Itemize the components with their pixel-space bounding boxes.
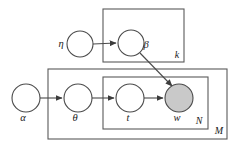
plate-label-m: M: [214, 125, 224, 136]
node-label-t: t: [127, 112, 131, 123]
node-label-eta: η: [58, 38, 63, 49]
node-label-w: w: [173, 112, 180, 123]
node-t-circle: [116, 84, 144, 112]
graphical-model-canvas: η β α θ t w k M N: [0, 0, 238, 147]
node-w-circle: [165, 84, 193, 112]
node-theta-circle: [64, 84, 92, 112]
node-label-theta: θ: [72, 112, 77, 123]
edges-group: [40, 43, 172, 98]
node-beta-circle: [118, 30, 144, 56]
node-alpha-circle: [12, 84, 40, 112]
plate-diagram: η β α θ t w k M N: [0, 0, 238, 147]
node-label-alpha: α: [20, 112, 26, 123]
node-label-beta: β: [142, 39, 149, 50]
node-eta-circle: [67, 31, 93, 57]
edge-eta-to-beta: [93, 43, 116, 44]
plate-label-n: N: [195, 115, 204, 126]
plate-label-k: k: [175, 49, 180, 60]
plate-k-rect: [103, 9, 184, 62]
node-labels-group: η β α θ t w: [20, 38, 180, 123]
